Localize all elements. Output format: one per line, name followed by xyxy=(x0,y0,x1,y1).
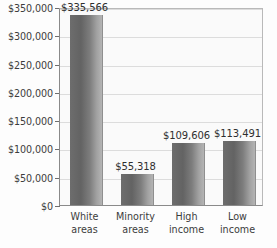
bar-value-label: $335,566 xyxy=(61,2,108,13)
y-axis: $0$50,000$100,000$150,000$200,000$250,00… xyxy=(0,0,58,248)
x-axis: WhiteareasMinorityareasHighincomeLowinco… xyxy=(59,210,263,248)
y-axis-tick-label: $350,000 xyxy=(8,3,53,14)
bar xyxy=(70,15,103,205)
bar xyxy=(223,141,256,205)
y-axis-tick-label: $200,000 xyxy=(8,87,53,98)
plot-area xyxy=(59,8,263,206)
y-axis-tick-label: $250,000 xyxy=(8,59,53,70)
y-axis-tick-label: $50,000 xyxy=(14,172,53,183)
bar xyxy=(172,143,205,205)
y-axis-tick-label: $100,000 xyxy=(8,144,53,155)
y-axis-tick-label: $300,000 xyxy=(8,31,53,42)
x-axis-category-line: High xyxy=(169,210,204,223)
x-axis-category-line: income xyxy=(169,223,204,236)
x-axis-category-line: areas xyxy=(71,223,99,236)
bars-layer xyxy=(60,9,262,205)
x-axis-category-label: Lowincome xyxy=(220,210,255,236)
y-axis-tick-label: $150,000 xyxy=(8,116,53,127)
x-axis-category-line: Minority xyxy=(116,210,155,223)
x-axis-category-label: Whiteareas xyxy=(71,210,99,236)
y-axis-tick-mark xyxy=(55,206,60,207)
y-axis-tick-label: $0 xyxy=(41,201,53,212)
bar-value-label: $55,318 xyxy=(115,161,156,172)
x-axis-category-label: Highincome xyxy=(169,210,204,236)
x-axis-category-line: income xyxy=(220,223,255,236)
bar xyxy=(121,174,154,205)
bar-value-label: $109,606 xyxy=(163,130,210,141)
bar-chart: $0$50,000$100,000$150,000$200,000$250,00… xyxy=(0,0,277,248)
bar-value-label: $113,491 xyxy=(214,128,261,139)
x-axis-category-line: Low xyxy=(220,210,255,223)
x-axis-category-line: areas xyxy=(116,223,155,236)
x-axis-category-label: Minorityareas xyxy=(116,210,155,236)
x-axis-category-line: White xyxy=(71,210,99,223)
